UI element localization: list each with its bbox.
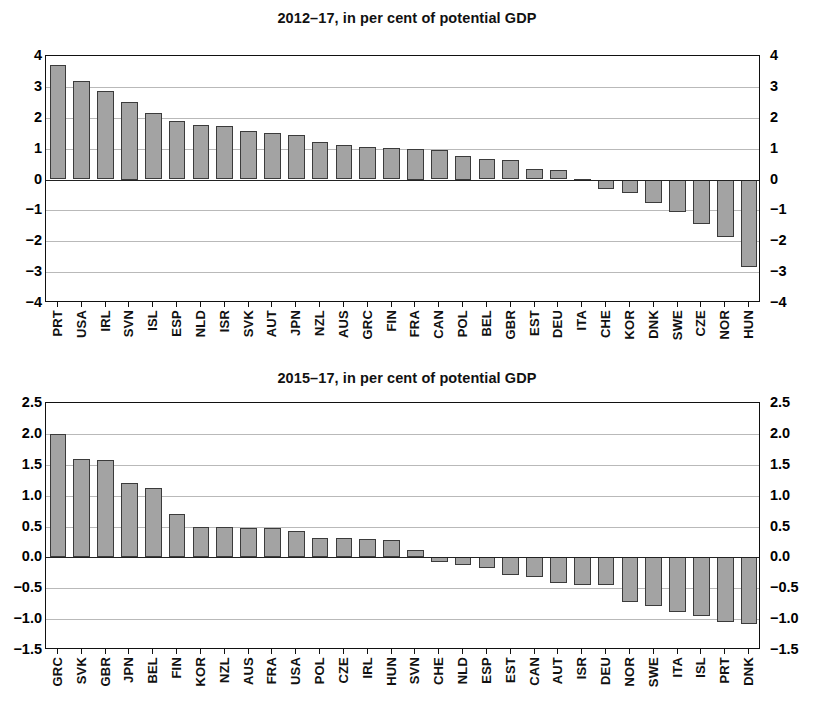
x-axis-label: FRA — [407, 310, 422, 337]
y-axis-tick-label-left: −0.5 — [13, 580, 42, 595]
x-tickmarks-bottom — [45, 649, 760, 655]
y-axis-tick-label-right: 0.5 — [770, 519, 790, 534]
x-axis-label: EST — [503, 657, 518, 683]
chart-panel-2015-17: 2015–17, in per cent of potential GDP GR… — [0, 360, 814, 720]
bar — [717, 557, 734, 622]
x-tickmark — [105, 649, 106, 654]
bar — [193, 527, 210, 558]
x-tickmark — [391, 302, 392, 307]
x-tickmark — [724, 302, 725, 307]
x-axis-label: JPN — [288, 310, 303, 336]
x-tickmark — [700, 649, 701, 654]
y-axis-tick-label-right: −4 — [770, 295, 787, 310]
y-axis-tick-label-right: 1.5 — [770, 457, 790, 472]
x-tickmark — [748, 302, 749, 307]
y-axis-tick-label-left: 2.0 — [22, 426, 42, 441]
x-axis-label: USA — [74, 310, 89, 338]
bar — [693, 557, 710, 616]
x-axis-label: SWE — [670, 310, 685, 340]
y-axis-tick-label-left: −1.5 — [13, 642, 42, 657]
bar — [574, 557, 591, 585]
x-tickmark — [81, 649, 82, 654]
x-axis-label: DNK — [741, 657, 756, 686]
y-axis-tick-label-left: 1 — [34, 141, 42, 156]
bar — [717, 180, 734, 237]
x-tickmark — [629, 649, 630, 654]
y-axis-tick-label-right: 2 — [770, 110, 778, 125]
bar — [169, 514, 186, 557]
plot-area-bottom — [45, 402, 760, 649]
bar — [502, 160, 519, 179]
x-axis-label: FRA — [264, 657, 279, 684]
bar — [455, 156, 472, 179]
x-axis-label: NZL — [217, 657, 232, 683]
x-tickmark — [581, 302, 582, 307]
x-axis-label: HUN — [741, 310, 756, 339]
bar — [312, 142, 329, 180]
x-tickmark — [152, 302, 153, 307]
bar — [431, 557, 448, 562]
bar — [407, 550, 424, 557]
x-tickmarks-top — [45, 302, 760, 308]
bar — [288, 531, 305, 557]
bar — [431, 150, 448, 179]
x-axis-label: CAN — [527, 657, 542, 686]
x-axis-label: CZE — [693, 310, 708, 337]
x-axis-label: POL — [312, 657, 327, 684]
y-axis-tick-label-left: 2 — [34, 110, 42, 125]
x-tickmark — [128, 302, 129, 307]
bar — [240, 131, 257, 179]
bar — [121, 102, 138, 179]
bar — [669, 557, 686, 611]
x-axis-label: ESP — [479, 657, 494, 684]
x-tickmark — [534, 649, 535, 654]
x-axis-label: POL — [455, 310, 470, 337]
bar — [526, 169, 543, 179]
x-axis-label: ITA — [574, 310, 589, 331]
x-tickmark — [748, 649, 749, 654]
x-axis-label: AUT — [264, 310, 279, 337]
x-tickmark — [319, 302, 320, 307]
bar — [73, 459, 90, 558]
x-axis-label: USA — [288, 657, 303, 685]
y-axis-tick-label-left: 2.5 — [22, 395, 42, 410]
bar — [479, 159, 496, 180]
y-axis-tick-label-left: −1 — [25, 202, 42, 217]
y-axis-tick-label-right: 0.0 — [770, 549, 790, 564]
y-axis-tick-label-right: −0.5 — [770, 580, 799, 595]
x-axis-label: AUT — [550, 657, 565, 684]
x-tickmark — [343, 302, 344, 307]
bar — [216, 527, 233, 558]
bar — [264, 528, 281, 557]
x-axis-label: DEU — [550, 310, 565, 338]
x-tickmark — [295, 302, 296, 307]
x-tickmark — [128, 649, 129, 654]
x-axis-label: SVK — [74, 657, 89, 684]
bar — [622, 180, 639, 194]
x-tickmark — [224, 302, 225, 307]
y-axis-tick-label-right: −1 — [770, 202, 787, 217]
bar — [145, 113, 162, 179]
bar — [97, 91, 114, 180]
y-axis-tick-label-left: −3 — [25, 264, 42, 279]
y-axis-tick-label-right: −1.0 — [770, 611, 799, 626]
x-axis-label: IRL — [360, 657, 375, 679]
bar — [550, 557, 567, 583]
bar — [193, 125, 210, 180]
x-tickmark — [343, 649, 344, 654]
bar — [145, 488, 162, 557]
x-tickmark — [367, 302, 368, 307]
y-axis-tick-label-left: 4 — [34, 48, 42, 63]
bar — [669, 180, 686, 212]
bar — [693, 180, 710, 225]
y-axis-tick-label-left: −1.0 — [13, 611, 42, 626]
bar — [598, 557, 615, 585]
x-tickmark — [105, 302, 106, 307]
y-axis-tick-label-left: −2 — [25, 233, 42, 248]
x-axis-label: ESP — [169, 310, 184, 337]
x-axis-label: FIN — [384, 310, 399, 332]
bar — [121, 483, 138, 557]
x-axis-label: KOR — [622, 310, 637, 340]
x-tickmark — [438, 302, 439, 307]
x-axis-label: CZE — [336, 657, 351, 684]
